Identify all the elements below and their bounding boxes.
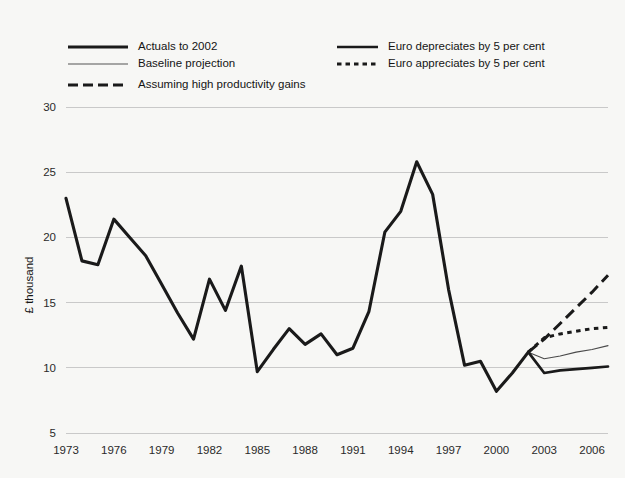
x-tick-label: 1979 [149,444,175,456]
y-axis-title: £ thousand [23,257,35,314]
x-tick-label: 1991 [340,444,366,456]
legend-label: Actuals to 2002 [138,40,217,52]
x-tick-label: 2000 [484,444,510,456]
legend-label: Euro appreciates by 5 per cent [388,57,545,69]
legend-label: Euro depreciates by 5 per cent [388,40,545,52]
x-tick-label: 1982 [197,444,223,456]
x-tick-label: 2006 [579,444,605,456]
y-tick-label: 5 [50,427,56,439]
y-tick-label: 20 [43,231,56,243]
legend-label: Assuming high productivity gains [138,78,306,90]
x-tick-label: 1976 [101,444,127,456]
y-tick-label: 30 [43,101,56,113]
line-chart: Actuals to 2002Baseline projectionAssumi… [0,0,625,478]
chart-container: Actuals to 2002Baseline projectionAssumi… [0,0,625,478]
x-tick-label: 1997 [436,444,462,456]
x-tick-label: 1973 [53,444,79,456]
legend-label: Baseline projection [138,57,235,69]
x-tick-label: 1988 [292,444,318,456]
y-tick-label: 25 [43,166,56,178]
x-tick-label: 2003 [531,444,557,456]
x-tick-label: 1985 [244,444,270,456]
x-tick-label: 1994 [388,444,414,456]
y-tick-label: 15 [43,297,56,309]
y-tick-label: 10 [43,362,56,374]
chart-background [0,0,625,478]
